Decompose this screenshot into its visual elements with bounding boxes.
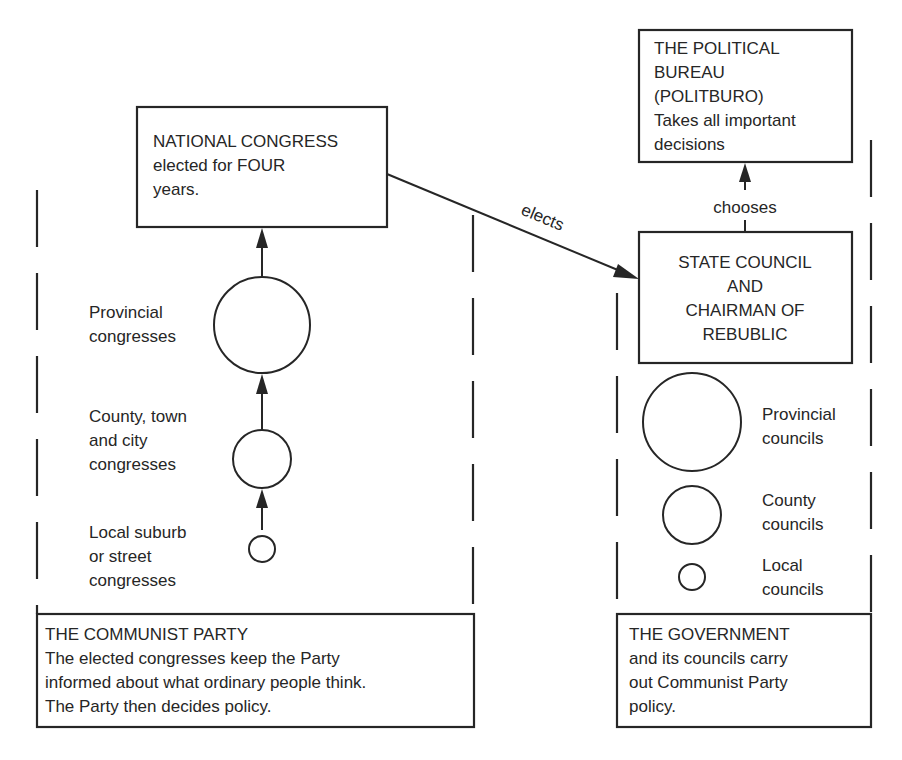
arrow-up-icon — [256, 489, 268, 530]
national-congress-box: NATIONAL CONGRESS elected for FOUR years… — [137, 107, 387, 227]
county-councils-circle — [663, 486, 721, 544]
politburo-line-3: (POLITBURO) — [654, 87, 764, 106]
county-congresses-label-2: and city — [89, 431, 148, 450]
politburo-line-4: Takes all important — [654, 111, 796, 130]
state-council-line-4: REBUBLIC — [702, 325, 787, 344]
chooses-arrow: chooses — [713, 163, 776, 232]
arrow-up-icon — [256, 374, 268, 430]
political-structure-diagram: NATIONAL CONGRESS elected for FOUR years… — [0, 0, 902, 760]
national-congress-line-3: years. — [153, 180, 199, 199]
local-councils-label-2: councils — [762, 580, 823, 599]
local-councils-circle — [679, 564, 705, 590]
national-congress-line-1: NATIONAL CONGRESS — [153, 132, 338, 151]
elects-arrow: elects — [387, 174, 639, 279]
local-congresses-circle — [249, 536, 275, 562]
provincial-congresses-circle — [214, 277, 310, 373]
communist-party-caption-box: THE COMMUNIST PARTY The elected congress… — [37, 614, 474, 727]
provincial-councils-circle — [643, 373, 741, 471]
local-councils-level: Local councils — [679, 556, 823, 599]
local-congresses-label-1: Local suburb — [89, 523, 186, 542]
government-caption-line-1: THE GOVERNMENT — [629, 625, 790, 644]
county-councils-label-2: councils — [762, 515, 823, 534]
provincial-congresses-level: Provincial congresses — [89, 277, 310, 373]
state-council-box: STATE COUNCIL AND CHAIRMAN OF REBUBLIC — [639, 232, 852, 363]
arrow-up-icon — [739, 163, 751, 182]
communist-party-caption-line-3: informed about what ordinary people thin… — [45, 673, 366, 692]
county-councils-level: County councils — [663, 486, 823, 544]
county-congresses-label-3: congresses — [89, 455, 176, 474]
county-congresses-circle — [233, 430, 291, 488]
politburo-box: THE POLITICAL BUREAU (POLITBURO) Takes a… — [639, 30, 852, 162]
local-congresses-label-3: congresses — [89, 571, 176, 590]
county-congresses-level: County, town and city congresses — [89, 407, 291, 488]
provincial-councils-label-1: Provincial — [762, 405, 836, 424]
provincial-councils-label-2: councils — [762, 429, 823, 448]
government-caption-line-3: out Communist Party — [629, 673, 788, 692]
government-caption-line-4: policy. — [629, 697, 676, 716]
provincial-congresses-label-1: Provincial — [89, 303, 163, 322]
provincial-congresses-label-2: congresses — [89, 327, 176, 346]
arrow-up-icon — [256, 228, 268, 277]
government-caption-line-2: and its councils carry — [629, 649, 788, 668]
state-council-line-2: AND — [727, 277, 763, 296]
politburo-line-5: decisions — [654, 135, 725, 154]
chooses-label: chooses — [713, 198, 776, 217]
state-council-line-3: CHAIRMAN OF — [686, 301, 805, 320]
communist-party-caption-line-4: The Party then decides policy. — [45, 697, 271, 716]
arrow-head-icon — [613, 264, 639, 279]
elects-label: elects — [518, 200, 566, 235]
government-caption-box: THE GOVERNMENT and its councils carry ou… — [617, 614, 871, 727]
national-congress-line-2: elected for FOUR — [153, 156, 285, 175]
communist-party-caption-line-1: THE COMMUNIST PARTY — [45, 625, 248, 644]
provincial-councils-level: Provincial councils — [643, 373, 836, 471]
communist-party-caption-line-2: The elected congresses keep the Party — [45, 649, 340, 668]
local-congresses-level: Local suburb or street congresses — [89, 523, 275, 590]
local-councils-label-1: Local — [762, 556, 803, 575]
local-congresses-label-2: or street — [89, 547, 152, 566]
politburo-line-1: THE POLITICAL — [654, 39, 780, 58]
county-congresses-label-1: County, town — [89, 407, 187, 426]
county-councils-label-1: County — [762, 491, 816, 510]
state-council-line-1: STATE COUNCIL — [678, 253, 812, 272]
politburo-line-2: BUREAU — [654, 63, 725, 82]
